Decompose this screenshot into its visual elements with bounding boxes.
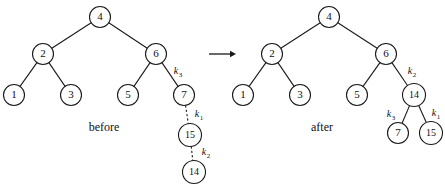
tree-edge-b6-b5	[134, 63, 150, 87]
tree-edge-b2-b1	[20, 63, 37, 87]
node-value-label: 3	[297, 88, 303, 100]
tree-node-before-15: 15	[179, 124, 202, 147]
tree-node-after-14: 14	[403, 84, 426, 107]
tree-node-before-1: 1	[4, 85, 25, 106]
node-value-label: 1	[240, 88, 246, 100]
node-value-label: 14	[409, 89, 419, 100]
tree-node-before-6: 6	[146, 44, 167, 65]
svg-text:k3: k3	[387, 108, 396, 122]
node-value-label: 6	[153, 47, 159, 59]
tree-rotation-figure: 4261357151442613514715 k3k1k2k2k3k1 befo…	[0, 0, 445, 188]
node-value-label: 15	[426, 127, 436, 138]
edge-key-label-a14-a15: k1	[432, 107, 441, 121]
svg-text:k1: k1	[432, 107, 441, 121]
node-value-label: 14	[189, 166, 199, 177]
node-value-label: 7	[181, 88, 187, 100]
node-value-label: 2	[40, 47, 46, 59]
edge-key-labels-layer: k3k1k2k2k3k1	[174, 65, 441, 160]
tree-node-before-7: 7	[174, 85, 195, 106]
tree-node-after-1: 1	[233, 85, 254, 106]
tree-edge-a4-a2	[281, 23, 320, 49]
diagram-canvas: 4261357151442613514715 k3k1k2k2k3k1 befo…	[0, 0, 445, 188]
panel-caption-before: before	[89, 120, 120, 134]
tree-node-after-7: 7	[388, 123, 409, 144]
edge-key-label-b15-b14: k2	[202, 146, 211, 160]
tree-edge-b7-b15	[186, 105, 189, 123]
node-value-label: 5	[354, 88, 360, 100]
panel-caption-after: after	[311, 120, 333, 134]
tree-node-after-5: 5	[347, 85, 368, 106]
node-value-label: 4	[97, 10, 103, 22]
node-value-label: 3	[68, 88, 74, 100]
tree-edge-a2-a1	[249, 63, 266, 87]
edge-key-label-b7-b15: k1	[195, 108, 204, 122]
edge-key-label-b6-b7: k3	[174, 65, 183, 79]
arrow-head	[230, 51, 236, 57]
nodes-layer: 4261357151442613514715	[4, 7, 443, 184]
tree-node-after-15: 15	[420, 122, 443, 145]
tree-edge-b15-b14	[191, 146, 193, 160]
node-value-label: 1	[11, 88, 17, 100]
captions-layer: beforeafter	[89, 120, 333, 134]
tree-node-before-2: 2	[33, 44, 54, 65]
node-value-label: 6	[383, 47, 389, 59]
tree-node-after-6: 6	[376, 44, 397, 65]
tree-node-before-14: 14	[183, 161, 206, 184]
tree-edge-b2-b3	[49, 63, 65, 87]
node-value-label: 2	[269, 47, 275, 59]
tree-node-before-3: 3	[61, 85, 82, 106]
edge-key-label-a14-a7: k3	[387, 108, 396, 122]
svg-text:k1: k1	[195, 108, 204, 122]
node-value-label: 5	[125, 88, 131, 100]
tree-edge-a14-a7	[402, 106, 409, 124]
tree-edge-a6-a5	[363, 63, 380, 87]
svg-text:k3: k3	[174, 65, 183, 79]
svg-text:k2: k2	[202, 146, 211, 160]
tree-node-before-4: 4	[90, 7, 111, 28]
tree-edge-a6-a14	[392, 63, 408, 86]
tree-node-after-3: 3	[290, 85, 311, 106]
tree-edge-a14-a15	[419, 105, 427, 122]
tree-node-after-2: 2	[262, 44, 283, 65]
node-value-label: 7	[395, 126, 401, 138]
node-value-label: 15	[185, 129, 195, 140]
tree-node-after-4: 4	[319, 7, 340, 28]
tree-edge-b4-b6	[109, 23, 147, 48]
tree-node-before-5: 5	[118, 85, 139, 106]
tree-edge-a4-a6	[338, 23, 377, 49]
transition-arrow	[209, 51, 236, 57]
tree-edge-a2-a3	[278, 63, 294, 87]
edge-key-label-a6-a14: k2	[408, 65, 417, 79]
tree-edge-b4-b2	[52, 23, 91, 49]
node-value-label: 4	[326, 10, 332, 22]
svg-text:k2: k2	[408, 65, 417, 79]
